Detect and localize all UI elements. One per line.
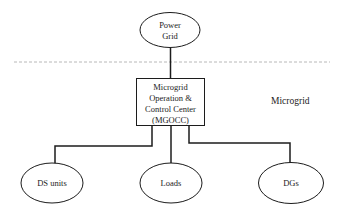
- connector-mgocc-dsunits: [55, 126, 152, 165]
- microgrid-diagram: Power Grid Microgrid Operation & Control…: [0, 0, 342, 205]
- mgocc-label-line4: (MGOCC): [152, 115, 189, 125]
- loads-label: Loads: [161, 178, 182, 188]
- ds-units-label: DS units: [37, 178, 67, 188]
- microgrid-region-label: Microgrid: [271, 96, 310, 106]
- power-grid-label-line2: Grid: [162, 31, 178, 41]
- microgrid-diagram-canvas: Power Grid Microgrid Operation & Control…: [0, 0, 342, 205]
- mgocc-label-line2: Operation &: [149, 93, 192, 103]
- dgs-label: DGs: [283, 178, 299, 188]
- power-grid-label-line1: Power: [159, 20, 181, 30]
- mgocc-label-line3: Control Center: [145, 104, 196, 114]
- mgocc-label-line1: Microgrid: [153, 82, 188, 92]
- connector-mgocc-dgs: [189, 126, 290, 164]
